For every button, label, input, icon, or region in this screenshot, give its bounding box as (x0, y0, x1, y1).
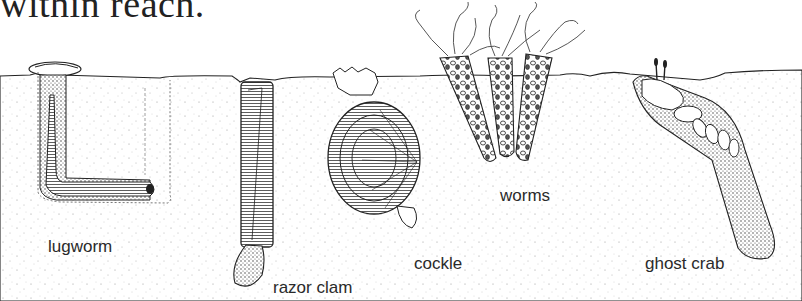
label-lugworm: lugworm (48, 237, 112, 257)
label-razor-clam: razor clam (273, 278, 352, 298)
label-worms: worms (500, 186, 550, 206)
label-cockle: cockle (414, 254, 462, 274)
label-ghost-crab: ghost crab (645, 254, 724, 274)
